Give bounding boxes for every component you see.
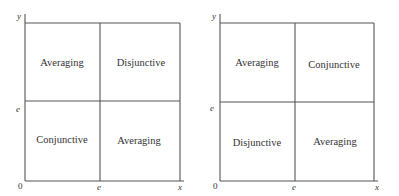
quadrant-top-left: Averaging: [235, 57, 279, 68]
y-axis-label: y: [16, 11, 21, 21]
left-panel: y e 0 e x Averaging Disjunctive Conjunct…: [16, 11, 184, 192]
quadrant-bottom-right: Averaging: [313, 136, 357, 147]
quadrant-bottom-right: Averaging: [117, 135, 161, 146]
diagram-canvas: y e 0 e x Averaging Disjunctive Conjunct…: [0, 0, 399, 196]
x-axis-label: x: [177, 182, 182, 192]
origin-label: 0: [18, 181, 23, 191]
origin-label: 0: [213, 181, 218, 191]
quadrant-top-right: Conjunctive: [308, 59, 360, 70]
x-threshold-label: e: [292, 182, 296, 192]
quadrant-bottom-left: Disjunctive: [233, 137, 282, 148]
x-threshold-label: e: [97, 182, 101, 192]
right-panel: y e 0 e x Averaging Conjunctive Disjunct…: [210, 11, 379, 192]
quadrant-bottom-left: Conjunctive: [36, 134, 88, 145]
quadrant-top-right: Disjunctive: [117, 57, 166, 68]
y-threshold-label: e: [16, 104, 20, 114]
y-axis-label: y: [211, 11, 216, 21]
x-axis-label: x: [374, 182, 379, 192]
y-threshold-label: e: [210, 103, 214, 113]
quadrant-top-left: Averaging: [40, 57, 84, 68]
